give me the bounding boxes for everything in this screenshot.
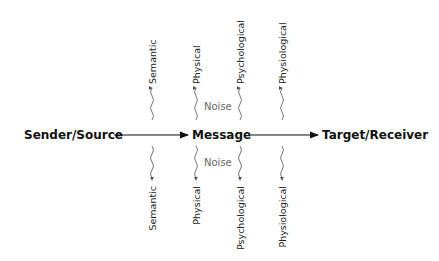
top-wavy-arrow-psychological xyxy=(239,88,242,120)
bottom-noise-label: Noise xyxy=(204,157,232,168)
bottom-wavy-arrow-physiological xyxy=(281,146,284,180)
receiver-node: Target/Receiver xyxy=(322,128,428,142)
bottom-wavy-arrow-physical xyxy=(195,146,198,180)
top-label-physical: Physical xyxy=(191,45,202,84)
top-wavy-arrow-physiological xyxy=(281,88,284,120)
top-label-psychological: Psychological xyxy=(235,20,246,84)
top-wavy-arrow-physical xyxy=(195,88,198,120)
bottom-wavy-arrow-semantic xyxy=(151,146,154,180)
message-node: Message xyxy=(192,128,251,142)
top-wavy-arrow-semantic xyxy=(151,88,154,120)
bottom-label-physical: Physical xyxy=(191,186,202,225)
bottom-label-semantic: Semantic xyxy=(147,186,158,231)
top-label-physiological: Physiological xyxy=(277,22,288,84)
top-noise-label: Noise xyxy=(204,101,232,112)
sender-node: Sender/Source xyxy=(24,128,123,142)
bottom-label-psychological: Psychological xyxy=(235,186,246,250)
communication-diagram: Sender/Source Message Target/Receiver Se… xyxy=(0,0,439,261)
bottom-wavy-arrow-psychological xyxy=(239,146,242,180)
top-label-semantic: Semantic xyxy=(147,39,158,84)
bottom-label-physiological: Physiological xyxy=(277,186,288,248)
